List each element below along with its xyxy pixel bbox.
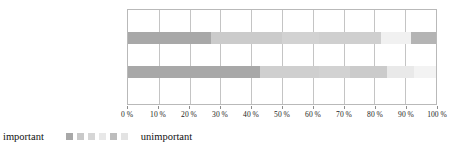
x-tick-label: 90 % bbox=[398, 110, 414, 120]
x-tick-label: 40 % bbox=[243, 110, 259, 120]
bar-segment bbox=[128, 66, 260, 78]
legend-swatch bbox=[77, 133, 84, 140]
x-tick-label: 100 % bbox=[427, 110, 447, 120]
stacked-bar bbox=[128, 32, 436, 44]
x-tick-label: 10 % bbox=[150, 110, 166, 120]
bar-segment bbox=[414, 66, 436, 78]
x-axis: 0 %10 %20 %30 %40 %50 %60 %70 %80 %90 %1… bbox=[127, 106, 437, 122]
x-tick-mark bbox=[220, 106, 221, 109]
x-tick-label: 30 % bbox=[212, 110, 228, 120]
gridline bbox=[282, 10, 283, 104]
bar-segment bbox=[260, 66, 319, 78]
gridline bbox=[374, 10, 375, 104]
x-tick-mark bbox=[158, 106, 159, 109]
x-tick-label: 60 % bbox=[305, 110, 321, 120]
legend-label-unimportant: unimportant bbox=[141, 130, 192, 143]
x-tick-mark bbox=[251, 106, 252, 109]
x-tick-label: 0 % bbox=[121, 110, 133, 120]
x-tick-label: 70 % bbox=[336, 110, 352, 120]
x-tick-mark bbox=[437, 106, 438, 109]
bar-segment bbox=[211, 32, 282, 44]
legend-swatch bbox=[88, 133, 95, 140]
x-tick-label: 80 % bbox=[367, 110, 383, 120]
bar-segment bbox=[350, 66, 387, 78]
x-tick-mark bbox=[344, 106, 345, 109]
gridline bbox=[159, 10, 160, 104]
x-tick-mark bbox=[375, 106, 376, 109]
legend-swatch bbox=[66, 133, 73, 140]
gridline bbox=[190, 10, 191, 104]
gridline bbox=[251, 10, 252, 104]
x-tick-mark bbox=[127, 106, 128, 109]
x-tick-mark bbox=[313, 106, 314, 109]
bar-segment bbox=[319, 66, 350, 78]
bar-segment bbox=[411, 32, 436, 44]
x-tick-label: 50 % bbox=[274, 110, 290, 120]
legend-swatch bbox=[110, 133, 117, 140]
stacked-bar bbox=[128, 66, 436, 78]
gridline bbox=[313, 10, 314, 104]
chart-plot-area bbox=[127, 9, 437, 105]
bar-segment bbox=[381, 32, 412, 44]
x-tick-mark bbox=[282, 106, 283, 109]
legend-swatch bbox=[99, 133, 106, 140]
x-tick-label: 20 % bbox=[181, 110, 197, 120]
gridline bbox=[220, 10, 221, 104]
bar-segment bbox=[319, 32, 381, 44]
gridline bbox=[405, 10, 406, 104]
legend-swatches bbox=[66, 133, 128, 140]
legend: important unimportant bbox=[3, 130, 192, 143]
x-tick-mark bbox=[189, 106, 190, 109]
legend-swatch bbox=[121, 133, 128, 140]
bar-segment bbox=[387, 66, 415, 78]
bar-segment bbox=[282, 32, 319, 44]
bar-segment bbox=[128, 32, 211, 44]
gridline bbox=[344, 10, 345, 104]
legend-label-important: important bbox=[3, 130, 44, 143]
x-tick-mark bbox=[406, 106, 407, 109]
